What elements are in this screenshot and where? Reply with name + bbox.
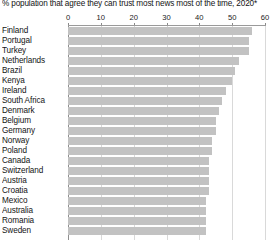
bar [68,37,249,45]
bar [68,87,226,95]
bar-row [68,36,265,46]
bar [68,27,252,35]
chart-title: % population that agree they can trust m… [2,0,270,9]
category-label: Sweden [2,226,66,236]
bar [68,217,206,225]
category-labels: FinlandPortugalTurkeyNetherlandsBrazilKe… [0,26,66,240]
category-label: Germany [2,126,66,136]
category-label: Ireland [2,86,66,96]
x-axis-tick-label: 60 [261,14,269,22]
bar [68,107,219,115]
bar-row [68,196,265,206]
bar [68,137,212,145]
category-label: Croatia [2,186,66,196]
bar-row [68,56,265,66]
bar-row [68,116,265,126]
bar [68,147,212,155]
x-axis-tick-label: 50 [228,14,236,22]
x-axis-tick-label: 30 [162,14,170,22]
bar-row [68,26,265,36]
bars-layer [68,26,265,240]
bar-row [68,106,265,116]
category-label: Norway [2,136,66,146]
bar [68,117,216,125]
category-label: Romania [2,216,66,226]
bar-chart: % population that agree they can trust m… [0,0,271,240]
bar [68,197,206,205]
bar [68,167,209,175]
bar-row [68,146,265,156]
category-label: Netherlands [2,56,66,66]
x-axis-tick-label: 10 [97,14,105,22]
category-label: Brazil [2,66,66,76]
x-axis-tick-label: 20 [129,14,137,22]
plot-area [68,26,265,240]
category-label: Finland [2,26,66,36]
category-label: Switzerland [2,166,66,176]
category-label: Austria [2,176,66,186]
bar-row [68,176,265,186]
category-label: Australia [2,206,66,216]
bar [68,67,235,75]
category-label: Portugal [2,36,66,46]
category-label: Canada [2,156,66,166]
category-label: South Africa [2,96,66,106]
bar-row [68,46,265,56]
bar [68,127,216,135]
gridline [265,26,266,240]
x-axis-tick-label: 40 [195,14,203,22]
x-axis-tick-label: 0 [66,14,70,22]
bar-row [68,156,265,166]
bar-row [68,76,265,86]
bar-row [68,136,265,146]
bar [68,157,209,165]
category-label: Mexico [2,196,66,206]
bar-row [68,66,265,76]
bar [68,97,222,105]
bar-row [68,126,265,136]
bar [68,57,239,65]
category-label: Poland [2,146,66,156]
category-label: Turkey [2,46,66,56]
category-label: Kenya [2,76,66,86]
bar [68,187,209,195]
bar [68,77,232,85]
bar-row [68,86,265,96]
bar-row [68,166,265,176]
bar-row [68,206,265,216]
bar-row [68,226,265,236]
category-label: Denmark [2,106,66,116]
bar [68,207,206,215]
bar-row [68,216,265,226]
category-label: Belgium [2,116,66,126]
bar [68,47,249,55]
bar-row [68,96,265,106]
bar-row [68,186,265,196]
bar [68,227,206,235]
bar [68,177,209,185]
